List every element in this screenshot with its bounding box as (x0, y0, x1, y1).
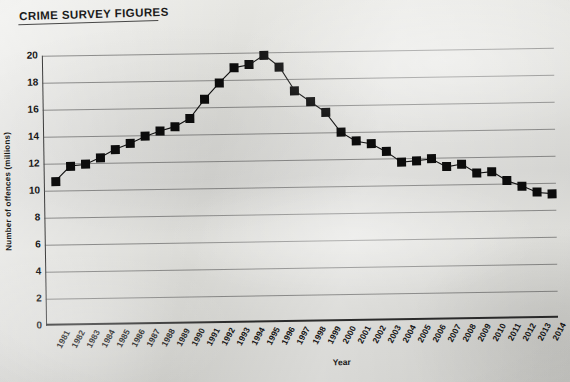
data-point-marker (290, 86, 299, 95)
data-point-marker (260, 50, 269, 59)
data-point-marker (533, 188, 542, 197)
data-point-marker (548, 189, 557, 198)
data-point-marker (321, 108, 330, 117)
x-axis-tick-label: 2001 (355, 324, 373, 345)
x-axis-tick-label: 1986 (129, 327, 147, 348)
data-point-marker (503, 176, 512, 185)
x-axis-tick-label: 2014 (551, 321, 569, 342)
x-axis-tick-label: 2000 (340, 324, 358, 345)
data-point-marker (125, 139, 134, 148)
y-axis-tick-label: 10 (29, 184, 40, 195)
x-axis-tick-labels: 1981198219831984198519861987198819891990… (46, 318, 559, 382)
y-axis-tick-label: 18 (27, 76, 38, 87)
chart-sheet: CRIME SURVEY FIGURES Number of offences … (0, 0, 570, 382)
y-axis-tick-label: 8 (35, 211, 41, 222)
x-axis-tick-label: 2007 (445, 322, 463, 343)
x-axis-tick-label: 1991 (204, 326, 222, 347)
y-axis-label: Number of offences (millions) (3, 132, 14, 251)
y-axis-tick-label: 12 (28, 157, 39, 168)
y-axis-tick-label: 4 (36, 265, 42, 276)
data-point-marker (111, 145, 120, 154)
data-point-marker (275, 62, 284, 71)
x-axis-tick-label: 2012 (521, 321, 539, 342)
y-axis-tick-label: 16 (27, 103, 38, 114)
data-point-marker (397, 158, 406, 167)
data-point-marker (336, 128, 345, 137)
data-point-marker (96, 153, 105, 162)
x-axis-tick-label: 2004 (400, 323, 418, 344)
x-axis-tick-label: 2009 (475, 322, 493, 343)
data-point-marker (215, 78, 224, 87)
plot-area: Number of offences (millions) 2018161412… (42, 48, 558, 326)
x-axis-tick-label: 2013 (536, 321, 554, 342)
x-axis-tick-label: 2005 (415, 323, 433, 344)
x-axis-tick-label: 2008 (460, 322, 478, 343)
x-axis-tick-label: 1999 (325, 324, 343, 345)
data-point-marker (200, 95, 209, 104)
x-axis-tick-label: 1997 (295, 325, 313, 346)
data-point-marker (81, 160, 90, 169)
x-axis-tick-label: 2010 (490, 322, 508, 343)
data-point-marker (518, 181, 527, 190)
data-point-marker (457, 159, 466, 168)
data-point-marker (51, 177, 60, 186)
data-point-marker (245, 60, 254, 69)
x-axis-tick-label: 2003 (385, 323, 403, 344)
data-point-marker (230, 63, 239, 72)
data-point-marker (487, 167, 496, 176)
x-axis-tick-label: 1993 (234, 326, 252, 347)
data-point-marker (185, 114, 194, 123)
x-axis-tick-label: 1992 (219, 326, 237, 347)
y-axis-tick-label: 14 (28, 130, 39, 141)
y-axis-tick-label: 20 (27, 49, 38, 60)
data-point-marker (442, 162, 451, 171)
data-point-marker (170, 122, 179, 131)
x-axis-tick-label: 1985 (114, 328, 132, 349)
data-point-marker (155, 126, 164, 135)
data-point-marker (306, 97, 315, 106)
data-point-marker (66, 161, 75, 170)
data-point-marker (366, 139, 375, 148)
x-axis-tick-label: 1981 (54, 329, 72, 350)
x-axis-tick-label: 1987 (144, 327, 162, 348)
data-series-line (42, 48, 558, 326)
data-point-marker (427, 154, 436, 163)
y-axis-tick-label: 6 (35, 238, 41, 249)
data-point-marker (412, 156, 421, 165)
x-axis-tick-label: 1988 (159, 327, 177, 348)
y-axis-tick-label: 2 (36, 292, 42, 303)
data-point-marker (140, 132, 149, 141)
x-axis-tick-label: 1984 (99, 328, 117, 349)
x-axis-tick-label: 1983 (84, 328, 102, 349)
x-axis-tick-label: 1990 (189, 326, 207, 347)
x-axis-tick-label: 1995 (265, 325, 283, 346)
data-point-marker (382, 147, 391, 156)
x-axis-label: Year (333, 357, 351, 367)
x-axis-tick-label: 2002 (370, 324, 388, 345)
y-axis-tick-label: 0 (36, 319, 42, 330)
x-axis-tick-label: 1982 (69, 328, 87, 349)
x-axis-tick-label: 1989 (174, 327, 192, 348)
data-point-marker (351, 137, 360, 146)
x-axis-tick-label: 1994 (249, 325, 267, 346)
x-axis-tick-label: 1996 (280, 325, 298, 346)
x-axis-tick-label: 1998 (310, 324, 328, 345)
x-axis-tick-label: 2011 (506, 321, 524, 342)
x-axis-tick-label: 2006 (430, 323, 448, 344)
data-point-marker (472, 169, 481, 178)
